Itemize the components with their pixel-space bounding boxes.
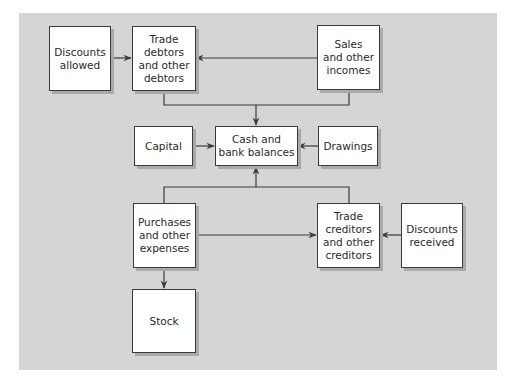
node-trade-creditors: Trade creditors and other creditors — [317, 203, 380, 268]
node-drawings: Drawings — [318, 126, 378, 166]
lower-merge-line — [164, 187, 349, 203]
node-cash-and-bank-balances: Cash and bank balances — [215, 126, 298, 166]
node-sales-and-other-incomes: Sales and other incomes — [317, 25, 380, 90]
node-stock: Stock — [132, 289, 196, 353]
node-trade-debtors: Trade debtors and other debtors — [132, 26, 196, 91]
node-capital: Capital — [134, 126, 193, 166]
node-discounts-received: Discounts received — [401, 203, 463, 268]
node-discounts-allowed: Discounts allowed — [49, 26, 111, 91]
upper-merge-line — [164, 90, 349, 105]
node-purchases-and-other-expenses: Purchases and other expenses — [133, 203, 196, 268]
